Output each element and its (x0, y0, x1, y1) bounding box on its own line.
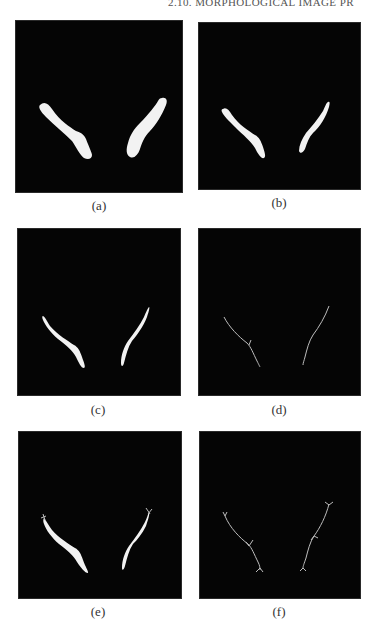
figure-panel-d (199, 229, 360, 395)
skeleton-image (199, 229, 360, 395)
eroded-shape-image (199, 23, 360, 189)
skeleton-with-branches-image (200, 432, 360, 598)
panel-caption-c: (c) (78, 402, 118, 418)
thinned-with-spurs-image (19, 432, 181, 598)
panel-caption-f: (f) (259, 604, 299, 620)
panel-caption-d: (d) (259, 402, 299, 418)
panel-caption-b: (b) (259, 195, 299, 211)
panel-caption-e: (e) (78, 604, 118, 620)
figure-panel-a (16, 21, 182, 192)
figure-panel-e (19, 432, 181, 598)
binary-shape-image (16, 21, 182, 192)
figure-panel-f (200, 432, 360, 598)
figure-panel-b (199, 23, 360, 189)
running-head: 2.10. MORPHOLOGICAL IMAGE PR (168, 0, 377, 8)
panel-caption-a: (a) (79, 198, 119, 214)
thinned-shape-image (18, 229, 180, 395)
figure-panel-c (18, 229, 180, 395)
